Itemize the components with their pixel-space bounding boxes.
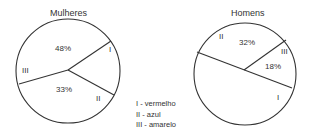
men-chart-title: Homens xyxy=(231,8,265,18)
men-pct-II: 32% xyxy=(239,38,255,47)
women-label-II: II xyxy=(96,94,100,103)
women-chart-title: Mulheres xyxy=(50,8,87,18)
legend-item-I: I - vermelho xyxy=(136,99,176,110)
legend-item-III: III - amarelo xyxy=(136,120,176,131)
men-label-I: I xyxy=(277,93,279,102)
women-pct-III: 48% xyxy=(55,44,71,53)
men-label-III: III xyxy=(281,47,288,56)
legend-item-II: II - azul xyxy=(136,110,176,121)
women-pct-II: 33% xyxy=(56,85,72,94)
legend: I - vermelho II - azul III - amarelo xyxy=(136,99,176,131)
women-divider-lower-right xyxy=(68,70,114,95)
women-label-III: III xyxy=(22,66,29,75)
women-label-I: I xyxy=(109,45,111,54)
women-divider-upper-right xyxy=(68,41,111,70)
women-pie xyxy=(16,19,120,123)
men-pct-III: 18% xyxy=(265,62,281,71)
men-label-II: II xyxy=(219,32,223,41)
women-pie-circle xyxy=(16,19,120,123)
